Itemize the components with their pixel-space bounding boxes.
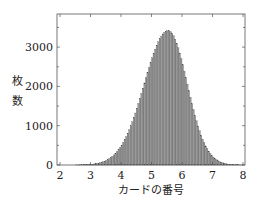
histogram-bar (187, 84, 189, 165)
histogram-bar (118, 150, 120, 165)
y-tick-label: 0 (46, 159, 53, 172)
histogram-bar (188, 91, 190, 165)
histogram-bar (110, 158, 112, 165)
histogram-bar (124, 140, 126, 165)
histogram-bar (115, 153, 117, 165)
histogram-bar (147, 73, 149, 165)
histogram-chart: 2345678 0100020003000 カードの番号 枚 数 (0, 0, 261, 206)
histogram-bar (130, 126, 132, 165)
histogram-bar (164, 32, 166, 165)
histogram-bar (214, 158, 216, 165)
histogram-bar (109, 159, 111, 165)
x-tick-label: 5 (148, 169, 155, 182)
histogram-bar (200, 135, 202, 165)
histogram-bar (194, 115, 196, 165)
histogram-bar (170, 32, 172, 165)
histogram-bar (219, 162, 221, 166)
x-tick-label: 4 (118, 169, 125, 182)
histogram-bar (152, 58, 154, 165)
histogram-bar (106, 160, 108, 165)
histogram-bar (153, 53, 155, 165)
histogram-bar (179, 53, 181, 165)
y-tick-label: 1000 (25, 120, 53, 133)
histogram-bar (177, 48, 179, 165)
histogram-bar (180, 59, 182, 165)
x-tick-label: 8 (240, 169, 247, 182)
histogram-bar (190, 97, 192, 165)
histogram-bar (133, 117, 135, 165)
histogram-bar (135, 113, 137, 165)
histogram-bar (132, 122, 134, 165)
x-tick-label: 7 (209, 169, 216, 182)
histogram-bar (101, 162, 103, 165)
y-axis-label-char-2: 数 (12, 95, 23, 108)
histogram-bar (173, 36, 175, 165)
histogram-bar (150, 63, 152, 165)
histogram-bar (145, 78, 147, 165)
histogram-bar (103, 162, 105, 165)
histogram-bar (208, 151, 210, 165)
histogram-bar (202, 139, 204, 165)
histogram-bar (144, 83, 146, 165)
histogram-bar (158, 42, 160, 165)
histogram-bar (107, 160, 109, 165)
histogram-bar (155, 49, 157, 165)
y-axis-label-char-1: 枚 (12, 74, 23, 88)
histogram-bar (112, 156, 114, 165)
histogram-bar (141, 93, 143, 165)
histogram-bars (75, 31, 243, 165)
histogram-bar (176, 43, 178, 165)
histogram-bar (162, 34, 164, 165)
histogram-bar (167, 31, 169, 165)
histogram-bar (182, 65, 184, 165)
y-tick-label: 2000 (25, 80, 53, 93)
histogram-bar (113, 155, 115, 165)
histogram-bar (139, 98, 141, 165)
histogram-bar (206, 149, 208, 165)
histogram-bar (165, 31, 167, 165)
histogram-bar (123, 143, 125, 165)
histogram-bar (199, 131, 201, 165)
histogram-bar (217, 161, 219, 165)
histogram-bar (205, 146, 207, 165)
histogram-bar (138, 103, 140, 165)
y-tick-label: 3000 (25, 41, 53, 54)
x-tick-label: 3 (87, 169, 94, 182)
histogram-bar (168, 31, 170, 165)
histogram-bar (196, 121, 198, 165)
histogram-bar (104, 161, 106, 165)
histogram-bar (116, 152, 118, 165)
histogram-bar (185, 78, 187, 165)
histogram-bar (197, 126, 199, 165)
histogram-bar (184, 71, 186, 165)
histogram-bar (142, 88, 144, 165)
x-tick-label: 6 (179, 169, 186, 182)
histogram-bar (161, 36, 163, 165)
histogram-bar (220, 162, 222, 165)
histogram-bar (129, 130, 131, 165)
x-tick-label: 2 (57, 169, 64, 182)
histogram-bar (209, 154, 211, 165)
histogram-bar (193, 110, 195, 165)
histogram-bar (126, 137, 128, 165)
histogram-bar (171, 33, 173, 165)
histogram-bar (216, 160, 218, 165)
histogram-bar (148, 68, 150, 166)
x-axis-label: カードの番号 (118, 184, 184, 197)
histogram-bar (159, 39, 161, 165)
histogram-bar (203, 143, 205, 165)
histogram-bar (127, 133, 129, 165)
histogram-bar (156, 45, 158, 165)
histogram-bar (136, 108, 138, 165)
histogram-bar (191, 103, 193, 165)
histogram-bar (174, 39, 176, 165)
